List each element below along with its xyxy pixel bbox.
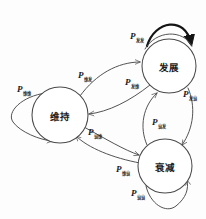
edge-label-symbol: P <box>88 127 94 137</box>
node-fazhan-label: 发展 <box>158 62 179 73</box>
edge-label-symbol: P <box>116 164 122 174</box>
edge-label-symbol: P <box>131 188 137 198</box>
edge-label-subscript: 发维 <box>131 83 140 90</box>
state-transition-diagram: 维持 发展 衰减 P维维P维发P发维P发发P发衰P衰发P衰维P维衰P衰衰 <box>0 0 206 219</box>
edge-label-subscript: 衰衰 <box>136 194 146 201</box>
edge-label-symbol: P <box>152 117 158 127</box>
edge-label-subscript: 维维 <box>23 90 32 97</box>
node-shuaijian[interactable]: 衰减 <box>138 139 192 193</box>
edge-label-subscript: 维发 <box>84 76 93 83</box>
edge-label-subscript: 维衰 <box>122 170 131 177</box>
edge-label-subscript: 发衰 <box>189 95 198 102</box>
edge-label-symbol: P <box>17 84 23 94</box>
nodes-layer: 维持 发展 衰减 <box>32 39 196 193</box>
edge-label-e-sf: P衰发 <box>152 117 167 130</box>
edge-label-subscript: 衰发 <box>157 123 167 130</box>
edge-label-symbol: P <box>125 77 131 87</box>
edge-label-e-ff: P发发 <box>130 31 145 44</box>
edge-label-symbol: P <box>130 31 136 41</box>
edge-label-e-ww: P维维 <box>17 84 32 97</box>
diagram-canvas: 维持 发展 衰减 P维维P维发P发维P发发P发衰P衰发P衰维P维衰P衰衰 <box>0 0 206 219</box>
node-fazhan[interactable]: 发展 <box>142 39 196 93</box>
edge-label-e-ss: P衰衰 <box>131 188 146 201</box>
edge-label-e-wf: P维发 <box>78 70 93 83</box>
node-shuaijian-label: 衰减 <box>154 162 175 173</box>
edge-label-symbol: P <box>78 70 84 80</box>
edge-label-e-ws: P维衰 <box>116 164 131 177</box>
edge-fazhan-weichi <box>89 85 150 114</box>
node-weichi-label: 维持 <box>50 111 70 122</box>
edge-label-subscript: 衰维 <box>93 133 103 140</box>
edge-label-e-fs: P发衰 <box>183 89 198 102</box>
edge-label-symbol: P <box>183 89 189 99</box>
edge-label-e-sw: P衰维 <box>88 127 103 140</box>
edge-label-e-fw: P发维 <box>125 77 140 90</box>
edge-label-subscript: 发发 <box>136 37 145 44</box>
node-weichi[interactable]: 维持 <box>32 87 88 143</box>
